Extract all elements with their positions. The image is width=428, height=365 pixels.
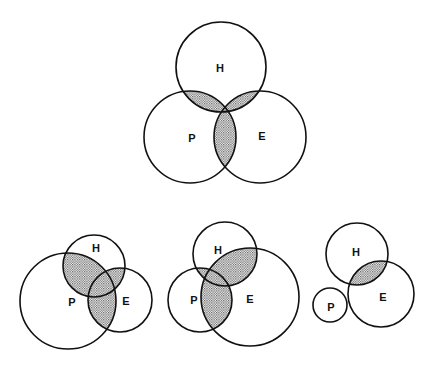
label-p: P (188, 132, 195, 144)
diagram-root: HPEHPEHPEHPE (20, 22, 414, 349)
label-p: P (327, 301, 334, 313)
label-p: P (190, 294, 197, 306)
label-h: H (92, 242, 100, 254)
label-p: P (68, 296, 75, 308)
label-h: H (214, 244, 222, 256)
venn-bottom-middle: HPE (168, 222, 299, 346)
label-e: E (379, 291, 386, 303)
label-e: E (258, 130, 265, 142)
venn-diagram-canvas: HPEHPEHPEHPE (0, 0, 428, 365)
venn-bottom-right: HPE (313, 223, 414, 327)
label-e: E (246, 293, 253, 305)
label-e: E (122, 295, 129, 307)
venn-bottom-left: HPE (20, 235, 152, 349)
venn-top: HPE (144, 22, 306, 183)
label-h: H (352, 246, 360, 258)
label-h: H (216, 62, 224, 74)
